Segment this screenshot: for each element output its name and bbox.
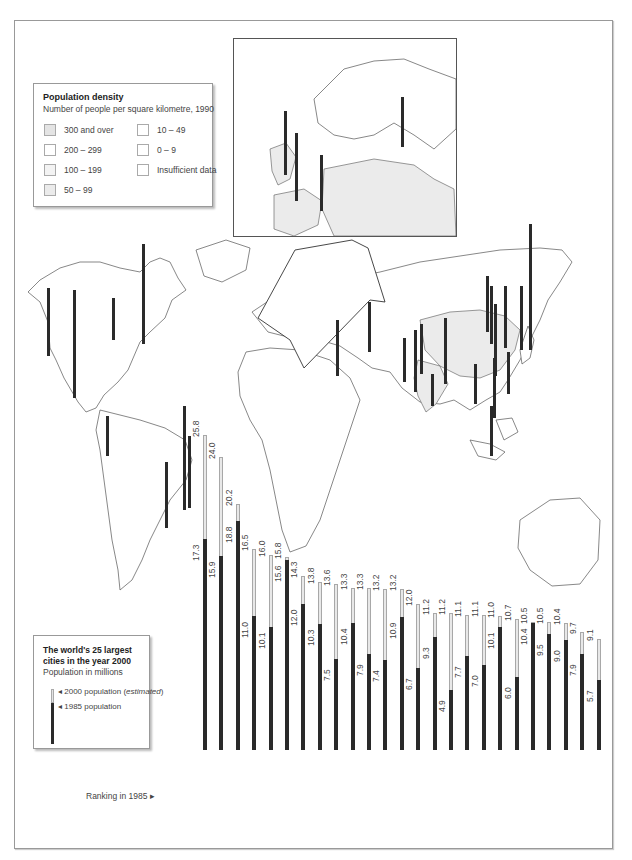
bar-1985 xyxy=(515,677,519,750)
bar-1985 xyxy=(351,623,355,750)
value-2000: 25.8 xyxy=(191,421,201,438)
legend-item-100-199: 100 – 199 xyxy=(44,164,102,176)
bar-1985 xyxy=(433,637,437,750)
value-1985: 7.9 xyxy=(568,664,578,676)
bar-1985 xyxy=(383,660,387,750)
key-label-1985: ◂ 1985 population xyxy=(58,702,121,711)
legend-label: Insufficient data xyxy=(157,165,216,175)
value-1985: 17.3 xyxy=(191,544,201,561)
value-1985: 7.5 xyxy=(322,669,332,681)
ranking-label: Ranking in 1985 ▸ xyxy=(86,791,155,801)
legend-label: 200 – 299 xyxy=(64,145,102,155)
legend-item-300-plus: 300 and over xyxy=(44,124,114,136)
legend-label: 10 – 49 xyxy=(157,125,185,135)
scandinavia xyxy=(314,59,456,149)
legend-item-50-99: 50 – 99 xyxy=(44,184,92,196)
bar-1985 xyxy=(252,616,256,750)
value-1985: 12.0 xyxy=(289,609,299,626)
swatch-insufficient-data xyxy=(137,164,149,176)
value-2000: 13.3 xyxy=(355,573,365,590)
value-2000: 15.8 xyxy=(273,543,283,560)
bar-1985 xyxy=(531,623,535,750)
value-2000: 13.3 xyxy=(339,573,349,590)
europe-map xyxy=(234,39,456,236)
value-1985: 10.4 xyxy=(519,629,529,646)
borneo xyxy=(496,418,518,440)
bar-1985 xyxy=(416,668,420,750)
swatch-50-99 xyxy=(44,184,56,196)
value-1985: 11.0 xyxy=(240,622,250,638)
density-legend-subtitle: Number of people per square kilometre, 1… xyxy=(43,104,214,114)
largest-cities-legend: The world's 25 largest cities in the yea… xyxy=(33,635,150,749)
africa xyxy=(238,348,360,552)
bar-1985 xyxy=(580,654,584,750)
swatch-300-plus xyxy=(44,124,56,136)
south-america xyxy=(96,410,192,590)
bar-1985 xyxy=(285,560,289,750)
bar-1985 xyxy=(367,654,371,750)
bar-1985 xyxy=(269,627,273,750)
key-label-2000: ◂ 2000 population (estimated) xyxy=(58,687,163,696)
value-1985: 15.6 xyxy=(273,565,283,582)
legend-item-0-9: 0 – 9 xyxy=(137,144,176,156)
value-2000: 13.2 xyxy=(388,574,398,591)
value-2000: 20.2 xyxy=(224,489,234,506)
value-1985: 5.7 xyxy=(585,691,595,703)
value-1985: 7.0 xyxy=(470,675,480,687)
value-2000: 24.0 xyxy=(207,443,217,460)
cities-legend-subtitle: Population in millions xyxy=(43,667,123,677)
value-1985: 10.4 xyxy=(339,629,349,646)
legend-item-200-299: 200 – 299 xyxy=(44,144,102,156)
swatch-100-199 xyxy=(44,164,56,176)
legend-label: 50 – 99 xyxy=(64,185,92,195)
north-america xyxy=(28,258,186,412)
value-1985: 9.0 xyxy=(552,650,562,662)
bar-1985 xyxy=(449,690,453,750)
value-2000: 11.2 xyxy=(437,599,447,615)
value-2000: 16.0 xyxy=(257,540,267,557)
bar-1985 xyxy=(547,634,551,750)
key-bar-1985 xyxy=(51,703,54,744)
bar-1985 xyxy=(219,556,223,750)
swatch-200-299 xyxy=(44,144,56,156)
legend-item-10-49: 10 – 49 xyxy=(137,124,185,136)
value-1985: 4.9 xyxy=(437,700,447,712)
central-europe xyxy=(322,159,456,236)
value-1985: 10.9 xyxy=(388,622,398,639)
value-2000: 16.5 xyxy=(240,534,250,551)
value-2000: 13.6 xyxy=(322,570,332,587)
key-2000-text: 2000 population ( xyxy=(64,687,126,696)
key-2000-paren: ) xyxy=(161,687,164,696)
swatch-0-9 xyxy=(137,144,149,156)
bar-1985 xyxy=(498,627,502,750)
population-density-legend: Population density Number of people per … xyxy=(33,83,213,207)
value-1985: 15.9 xyxy=(207,561,217,578)
value-2000: 13.8 xyxy=(306,567,316,584)
value-1985: 6.0 xyxy=(503,687,513,699)
value-2000: 13.2 xyxy=(371,574,381,591)
value-2000: 10.4 xyxy=(552,609,562,626)
key-1985-text: 1985 population xyxy=(64,702,121,711)
legend-label: 100 – 199 xyxy=(64,165,102,175)
density-legend-title: Population density xyxy=(43,92,124,102)
bar-1985 xyxy=(564,640,568,750)
value-2000: 11.2 xyxy=(421,599,431,615)
bar-1985 xyxy=(301,604,305,750)
british-isles xyxy=(270,143,296,185)
value-2000: 10.7 xyxy=(503,605,513,622)
bar-1985 xyxy=(482,665,486,750)
value-2000: 10.5 xyxy=(519,607,529,624)
legend-label: 300 and over xyxy=(64,125,114,135)
cities-legend-title: The world's 25 largest cities in the yea… xyxy=(43,645,148,667)
value-1985: 10.1 xyxy=(486,632,496,649)
value-1985: 10.1 xyxy=(257,632,267,649)
value-1985: 7.7 xyxy=(453,666,463,678)
bar-1985 xyxy=(597,680,601,750)
swatch-10-49 xyxy=(137,124,149,136)
bar-1985 xyxy=(318,624,322,750)
value-2000: 11.1 xyxy=(453,601,463,617)
value-1985: 7.9 xyxy=(355,664,365,676)
legend-label: 0 – 9 xyxy=(157,145,176,155)
value-2000: 12.0 xyxy=(404,589,414,606)
value-2000: 9.7 xyxy=(568,622,578,634)
